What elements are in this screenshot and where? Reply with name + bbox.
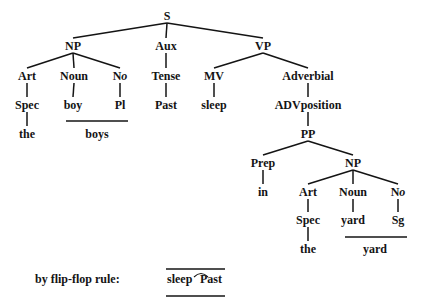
tree-node-yard1: yard (341, 213, 365, 227)
tree-node-noun2: Noun (339, 185, 367, 199)
flip-flop-rule: by flip-flop rule: sleep Past (35, 269, 225, 296)
tree-edge (308, 141, 353, 155)
tree-node-the1: the (19, 127, 36, 141)
tree-edge (73, 23, 167, 38)
tree-node-vp: VP (255, 39, 271, 53)
tree-node-noun1: Noun (60, 69, 88, 83)
tree-node-tense: Tense (152, 69, 182, 83)
tree-node-art2: Art (299, 185, 317, 199)
tree-edge (167, 23, 263, 38)
combined-form-yard: yard (363, 242, 387, 256)
tree-node-s: S (164, 9, 171, 23)
tree-node-advposition: ADVposition (275, 98, 342, 112)
tree-edge (308, 170, 353, 184)
tree-nodes: SNPAuxVPArtNounNoTenseMVAdverbialSpecboy… (15, 9, 405, 256)
tree-node-the2: the (300, 242, 317, 256)
tree-edge (166, 23, 167, 38)
tree-node-boy: boy (64, 98, 83, 112)
tree-node-spec2: Spec (296, 213, 321, 227)
tree-edge (353, 170, 398, 184)
tree-edge (214, 53, 263, 68)
tree-node-mv: MV (204, 69, 224, 83)
combined-form-boys: boys (85, 127, 109, 141)
tree-edges (27, 23, 398, 241)
tree-node-np1: NP (65, 39, 81, 53)
tree-node-adverbial: Adverbial (282, 69, 334, 83)
tree-node-prep: Prep (251, 156, 276, 170)
tree-edge (73, 53, 120, 68)
tree-node-in: in (258, 185, 268, 199)
tree-node-pl: Pl (115, 98, 126, 112)
tree-node-pp: PP (301, 127, 316, 141)
tree-node-no2: No (391, 185, 406, 199)
tree-node-past: Past (155, 98, 177, 112)
flip-flop-word-sleep: sleep (167, 272, 193, 286)
tree-node-sg: Sg (392, 213, 405, 227)
tree-node-np2: NP (345, 156, 361, 170)
tree-edge (263, 141, 308, 155)
tree-edge (73, 53, 74, 68)
tree-edge (73, 83, 74, 97)
tree-node-aux: Aux (155, 39, 176, 53)
tree-node-spec1: Spec (15, 98, 40, 112)
tree-edge (27, 53, 73, 68)
syntax-tree-diagram: boysyard SNPAuxVPArtNounNoTenseMVAdverbi… (0, 0, 421, 302)
flip-flop-word-past: Past (200, 272, 222, 286)
tree-node-no1: No (113, 69, 128, 83)
flip-flop-caption: by flip-flop rule: (35, 272, 120, 286)
tree-node-art1: Art (18, 69, 36, 83)
tree-node-sleep: sleep (201, 98, 227, 112)
tree-edge (263, 53, 308, 68)
